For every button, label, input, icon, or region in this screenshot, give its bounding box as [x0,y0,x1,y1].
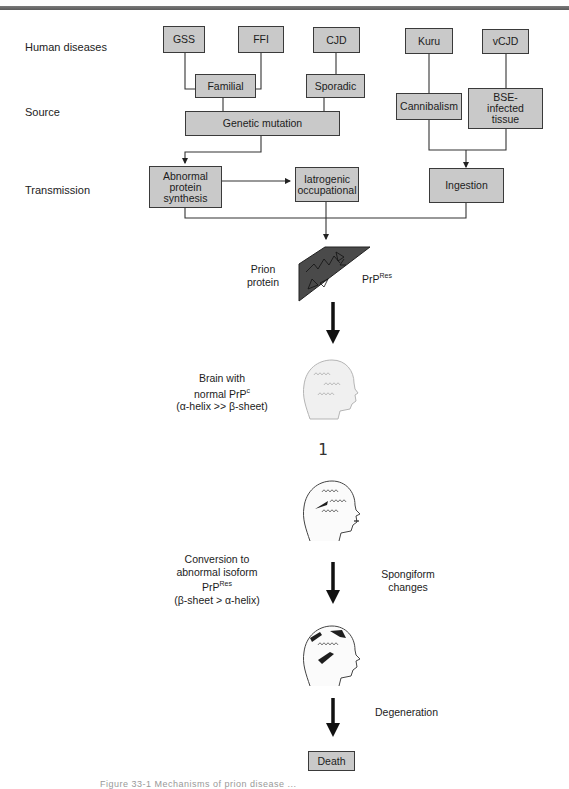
prion-protein-label: Prion protein [238,263,288,288]
spongiform-changes-label: Spongiform changes [373,568,443,593]
abnormal-line2: protein [169,182,201,193]
disease-box-gss: GSS [163,26,205,53]
prion-label-line1: Prion [238,263,288,276]
conversion-sup: Res [220,580,232,587]
ingestion-label: Ingestion [445,180,488,191]
brain-normal-line3: (α-helix >> β-sheet) [172,400,272,413]
prp-res-label: PrPRes [362,270,392,286]
conversion-label: Conversion to abnormal isoform PrPRes (β… [157,553,277,606]
transmission-box-ingestion: Ingestion [429,168,504,203]
death-box: Death [308,751,355,771]
head-partial-conversion-icon [300,477,362,545]
transmission-box-iatrogenic-occupational: Iatrogenic occupational [295,167,359,202]
source-box-cannibalism: Cannibalism [396,93,462,120]
disease-box-cjd: CJD [313,27,360,53]
conversion-line4: (β-sheet > α-helix) [157,594,277,607]
head-degenerated-icon [300,622,362,690]
prion-label-line2: protein [238,276,288,289]
disease-ffi-label: FFI [253,34,269,45]
brain-normal-line1: Brain with [172,372,272,385]
conversion-line2: abnormal isoform [157,566,277,579]
disease-kuru-label: Kuru [418,36,440,47]
disease-box-kuru: Kuru [405,28,453,54]
disease-gss-label: GSS [173,34,195,45]
stray-digit-one: 1 [318,440,328,459]
death-label: Death [317,756,345,767]
disease-box-ffi: FFI [238,26,284,53]
head-normal-icon [300,357,360,423]
brain-normal-label: Brain with normal PrPc (α-helix >> β-she… [172,372,272,413]
conversion-line3: PrP [202,581,220,593]
degeneration-label: Degeneration [375,706,438,719]
iatrogenic-line2: occupational [298,185,357,196]
source-box-genetic-mutation: Genetic mutation [185,111,340,136]
disease-cjd-label: CJD [326,35,346,46]
source-cannibalism-label: Cannibalism [400,101,458,112]
source-box-sporadic: Sporadic [306,74,365,98]
conversion-line1: Conversion to [157,553,277,566]
disease-vcjd-label: vCJD [493,36,519,47]
bse-line3: tissue [492,114,519,125]
prp-base: PrP [362,273,380,285]
transmission-box-abnormal-protein-synthesis: Abnormal protein synthesis [149,166,222,208]
brain-normal-sup: c [247,387,251,394]
source-familial-label: Familial [207,81,243,92]
source-genetic-mutation-label: Genetic mutation [223,118,302,129]
spongiform-line2: changes [373,581,443,594]
brain-normal-line2: normal PrP [194,388,247,400]
disease-box-vcjd: vCJD [482,29,529,54]
source-sporadic-label: Sporadic [315,81,356,92]
abnormal-line3: synthesis [164,193,208,204]
prp-sup: Res [380,272,392,279]
abnormal-line1: Abnormal [163,171,208,182]
iatrogenic-line1: Iatrogenic [304,174,350,185]
figure-caption: Figure 33-1 Mechanisms of prion disease … [100,779,297,789]
spongiform-line1: Spongiform [373,568,443,581]
source-box-familial: Familial [195,74,256,98]
source-box-bse-infected-tissue: BSE- infected tissue [468,88,543,129]
